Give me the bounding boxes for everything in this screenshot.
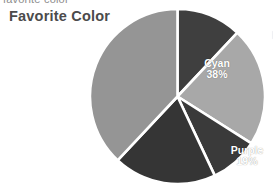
clipped-caption-text: favorite color — [3, 0, 69, 5]
pie-chart-figure: favorite color Favorite Color Blue 12% R… — [0, 0, 273, 183]
pie-svg — [89, 8, 266, 183]
pie-slice-group — [90, 9, 265, 183]
pie-chart: Blue 12% Red 22% Green 9% Purple 19% Cya… — [89, 8, 266, 183]
